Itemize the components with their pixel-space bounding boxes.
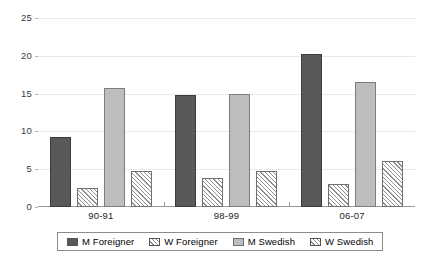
legend-item: M Foreigner — [67, 237, 134, 247]
legend-swatch-icon — [149, 238, 160, 246]
bar — [202, 178, 223, 207]
bar-group — [289, 18, 415, 207]
y-axis-tick-label: 20 — [21, 51, 32, 61]
bar — [131, 171, 152, 207]
bar — [229, 94, 250, 207]
y-axis-tick-label: 10 — [21, 127, 32, 137]
plot-area: 0510152025 — [38, 18, 415, 207]
legend-label: W Swedish — [325, 237, 373, 247]
legend-label: M Foreigner — [82, 237, 134, 247]
legend-swatch-icon — [310, 238, 321, 246]
bar — [175, 95, 196, 207]
bar-group — [38, 18, 164, 207]
bar — [355, 82, 376, 207]
bar — [328, 184, 349, 207]
x-axis: 90-9198-9906-07 — [38, 209, 415, 227]
y-axis-tick-label: 5 — [27, 164, 32, 174]
x-tick-mark — [289, 202, 290, 207]
legend-item: W Foreigner — [149, 237, 217, 247]
legend-label: M Swedish — [248, 237, 295, 247]
x-axis-tick-label: 90-91 — [88, 211, 113, 221]
bar — [104, 88, 125, 207]
bar — [77, 188, 98, 207]
bar-group — [164, 18, 290, 207]
legend-swatch-icon — [233, 238, 244, 246]
bar — [301, 54, 322, 207]
y-axis-tick-label: 15 — [21, 89, 32, 99]
bar-chart: 0510152025 90-9198-9906-07 M ForeignerW … — [0, 0, 430, 268]
bar — [256, 171, 277, 207]
x-axis-tick-label: 98-99 — [214, 211, 239, 221]
x-axis-tick-label: 06-07 — [340, 211, 365, 221]
legend-label: W Foreigner — [164, 237, 217, 247]
y-tick-mark — [35, 207, 38, 208]
legend-item: W Swedish — [310, 237, 373, 247]
y-axis-tick-label: 0 — [27, 202, 32, 212]
y-axis-tick-label: 25 — [21, 13, 32, 23]
bar — [50, 137, 71, 207]
legend-swatch-icon — [67, 238, 78, 246]
chart-legend: M ForeignerW ForeignerM SwedishW Swedish — [57, 232, 383, 251]
bar — [382, 161, 403, 207]
legend-item: M Swedish — [233, 237, 295, 247]
bars-layer — [38, 18, 415, 207]
x-tick-mark — [164, 202, 165, 207]
